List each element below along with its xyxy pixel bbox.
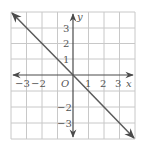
x-tick-label: 1 (85, 78, 91, 89)
x-tick-label: −3 (15, 78, 30, 89)
x-tick-label: 2 (100, 78, 106, 89)
x-axis-label: x (126, 78, 132, 89)
y-tick-label: 1 (63, 54, 69, 65)
x-tick-label: 3 (115, 78, 121, 89)
y-tick-label: −3 (57, 118, 72, 129)
origin-label: O (61, 78, 69, 89)
y-axis-label: y (76, 11, 83, 22)
coordinate-graph: y x O −3 −2 1 2 3 3 2 1 −2 −3 (0, 0, 141, 144)
y-tick-label: 2 (63, 38, 69, 49)
y-tick-label: −2 (57, 102, 72, 113)
y-tick-label: 3 (63, 23, 69, 34)
x-tick-label: −2 (31, 78, 46, 89)
